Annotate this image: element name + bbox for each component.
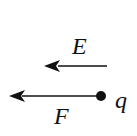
charge-label-q: q	[115, 87, 127, 113]
force-diagram: E F q	[0, 0, 137, 136]
force-arrow-f	[9, 90, 101, 102]
force-label-f: F	[53, 103, 69, 129]
charge-dot	[96, 91, 106, 101]
field-arrow-e	[44, 60, 107, 72]
field-label-e: E	[71, 33, 87, 59]
